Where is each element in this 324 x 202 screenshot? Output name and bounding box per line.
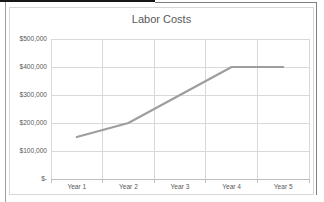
y-axis-label: $400,000 [19, 63, 47, 70]
y-axis-label: $500,000 [19, 35, 47, 42]
x-axis-label: Year 1 [67, 183, 86, 190]
x-axis-label: Year 2 [119, 183, 138, 190]
screenshot-root: Labor Costs $-$100,000$200,000$300,000$4… [0, 0, 324, 202]
x-axis-label: Year 4 [222, 183, 241, 190]
y-axis-label: $100,000 [19, 147, 47, 154]
y-axis-label: $300,000 [19, 91, 47, 98]
series-line-labor-costs [77, 67, 283, 137]
y-axis-label: $200,000 [19, 119, 47, 126]
x-axis-label: Year 3 [171, 183, 190, 190]
line-chart-canvas: $-$100,000$200,000$300,000$400,000$500,0… [0, 0, 324, 202]
x-axis-label: Year 5 [274, 183, 293, 190]
y-axis-label: $- [41, 175, 47, 182]
